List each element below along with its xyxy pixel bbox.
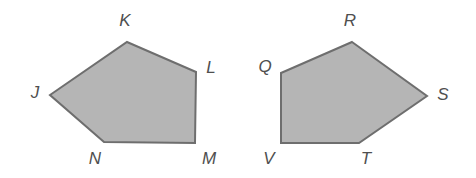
vertex-label-t: T	[361, 149, 373, 168]
vertex-label-v: V	[263, 149, 276, 168]
vertex-label-r: R	[344, 11, 356, 30]
pentagon-jklmn	[50, 42, 196, 143]
vertex-label-k: K	[119, 11, 131, 30]
geometry-figure: KLMNJRSTVQ	[0, 0, 476, 178]
vertex-label-l: L	[206, 58, 215, 77]
shapes-layer	[50, 42, 427, 143]
vertex-label-n: N	[89, 149, 102, 168]
pentagons-diagram: KLMNJRSTVQ	[0, 0, 476, 178]
vertex-label-m: M	[202, 149, 217, 168]
vertex-label-j: J	[30, 83, 40, 102]
pentagon-qrstv	[281, 42, 427, 143]
vertex-label-q: Q	[258, 57, 271, 76]
vertex-label-s: S	[437, 85, 449, 104]
